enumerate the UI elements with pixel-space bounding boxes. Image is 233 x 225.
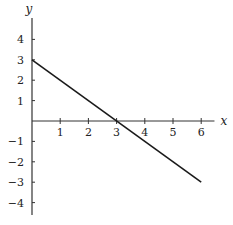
x-tick-label: 6 <box>198 126 205 139</box>
axes <box>32 18 214 215</box>
y-tick-label: 4 <box>17 33 24 46</box>
y-axis-label: y <box>25 2 33 16</box>
x-tick-label: 4 <box>141 126 148 139</box>
y-tick-label: −1 <box>8 135 24 148</box>
y-tick-label: −4 <box>8 197 24 210</box>
y-tick-label: 1 <box>17 95 24 108</box>
y-axis-ticks: 4321−1−2−3−4 <box>8 33 35 209</box>
y-tick-label: −2 <box>8 156 24 169</box>
y-tick-label: 2 <box>17 74 24 87</box>
x-tick-label: 2 <box>85 126 92 139</box>
x-tick-label: 5 <box>170 126 177 139</box>
x-tick-label: 1 <box>57 126 64 139</box>
x-axis-label: x <box>220 114 227 128</box>
y-tick-label: −3 <box>8 176 24 189</box>
x-tick-label: 3 <box>113 126 120 139</box>
y-tick-label: 3 <box>17 54 24 67</box>
chart: 123456 4321−1−2−3−4 x y <box>0 0 233 225</box>
